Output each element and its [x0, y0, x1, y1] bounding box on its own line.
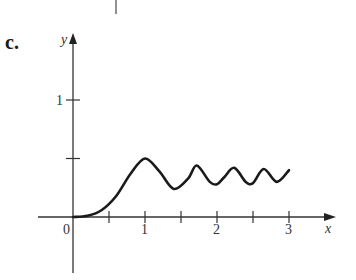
x-tick-label: 0 — [63, 222, 70, 237]
y-tick-label: 1 — [56, 93, 63, 108]
x-axis-arrow-icon — [324, 213, 336, 221]
x-tick-label: 3 — [285, 222, 292, 237]
x-axis-label: x — [324, 221, 332, 236]
x-tick-label: 1 — [141, 222, 148, 237]
ticks — [66, 100, 289, 223]
chart-canvas: y x 01231 — [0, 0, 356, 280]
y-axis-label: y — [59, 32, 68, 47]
y-axis-arrow-icon — [69, 33, 77, 44]
data-curve — [73, 158, 289, 217]
x-tick-label: 2 — [213, 222, 220, 237]
